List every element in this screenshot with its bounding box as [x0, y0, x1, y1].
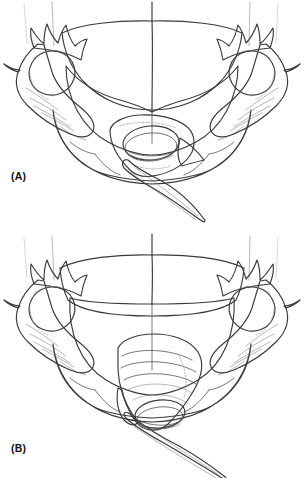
right-appendage: [210, 260, 300, 373]
marginal-setae: [24, 2, 278, 46]
marginal-setae: [24, 236, 278, 280]
panel-label-a: (A): [11, 170, 26, 182]
panel-a: [0, 0, 305, 235]
panel-b: [0, 228, 305, 478]
central-eversible-organ: [110, 115, 205, 222]
left-appendage: [4, 260, 94, 373]
panel-b-drawing: [0, 228, 305, 478]
central-eversible-organ: [117, 334, 225, 478]
panel-label-b: (B): [11, 442, 26, 454]
panel-a-drawing: [0, 0, 305, 235]
figure-root: (A): [0, 0, 305, 478]
